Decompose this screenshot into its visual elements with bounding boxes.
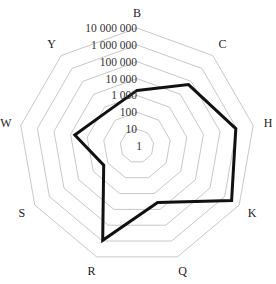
radar-chart: 1101001 00010 000100 0001 000 00010 000 … <box>0 0 276 284</box>
category-label-y: Y <box>47 37 56 51</box>
category-label-w: W <box>0 116 12 130</box>
tick-label: 10 000 <box>105 73 137 85</box>
category-label-q: Q <box>178 264 187 278</box>
tick-label: 100 <box>120 106 138 118</box>
tick-label: 1 000 000 <box>91 39 137 51</box>
category-label-b: B <box>133 6 141 20</box>
category-label-h: H <box>264 116 273 130</box>
category-label-r: R <box>87 264 95 278</box>
category-label-k: K <box>248 206 257 220</box>
tick-label: 1 000 <box>111 89 137 101</box>
category-label-s: S <box>18 206 25 220</box>
category-label-c: C <box>218 37 226 51</box>
tick-label: 100 000 <box>100 56 138 68</box>
tick-label: 10 000 000 <box>85 22 137 34</box>
tick-label: 10 <box>126 123 138 135</box>
tick-label: 1 <box>136 140 142 152</box>
